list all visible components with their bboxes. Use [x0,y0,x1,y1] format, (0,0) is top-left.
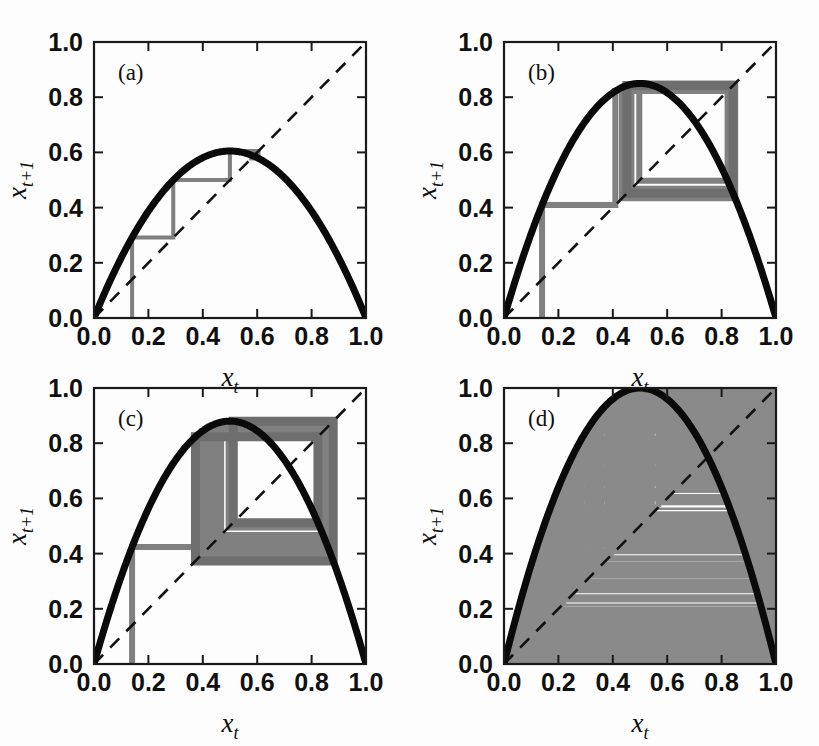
x-tick-label: 0.8 [704,668,739,696]
y-tick-label: 0.2 [458,249,493,277]
y-tick-label: 0.4 [458,540,493,568]
y-tick-label: 0.6 [48,138,83,166]
plot-d: 0.00.00.20.20.40.40.60.60.80.81.01.0xtxt… [410,346,819,746]
y-tick-label: 1.0 [48,374,83,402]
panel-d: 0.00.00.20.20.40.40.60.60.80.81.01.0xtxt… [410,346,819,746]
y-tick-label: 0.4 [48,540,83,568]
y-tick-label: 0.8 [48,83,83,111]
y-tick-label: 0.0 [458,304,493,332]
y-tick-label: 0.6 [458,138,493,166]
y-tick-label: 0.0 [458,650,493,678]
y-tick-label: 0.0 [48,650,83,678]
x-tick-label: 0.4 [595,668,630,696]
panel-b: 0.00.00.20.20.40.40.60.60.80.81.01.0xtxt… [410,0,819,400]
panel-tag: (d) [528,406,555,431]
cobweb-trajectory [542,83,735,318]
y-tick-label: 1.0 [48,28,83,56]
y-tick-label: 0.2 [48,595,83,623]
x-tick-label: 0.6 [650,668,685,696]
panel-tag: (c) [118,406,144,431]
y-tick-label: 0.0 [48,304,83,332]
panel-a: 0.00.00.20.20.40.40.60.60.80.81.01.0xtxt… [0,0,409,400]
x-tick-label: 1.0 [759,668,794,696]
panel-tag: (b) [528,60,555,85]
x-axis-label: xt [221,708,240,743]
y-tick-label: 1.0 [458,374,493,402]
y-tick-label: 0.4 [48,194,83,222]
y-tick-label: 0.6 [458,484,493,512]
y-axis-label: xt+1 [2,161,37,200]
x-tick-label: 0.8 [294,668,329,696]
y-tick-label: 0.2 [458,595,493,623]
y-tick-label: 1.0 [458,28,493,56]
x-tick-label: 1.0 [349,668,384,696]
plot-b: 0.00.00.20.20.40.40.60.60.80.81.01.0xtxt… [410,0,819,400]
y-tick-label: 0.4 [458,194,493,222]
cobweb-trajectory [132,151,258,318]
y-tick-label: 0.2 [48,249,83,277]
y-axis-label: xt+1 [2,507,37,546]
y-tick-label: 0.8 [48,429,83,457]
x-tick-label: 0.2 [131,668,166,696]
y-axis-label: xt+1 [412,161,447,200]
x-tick-label: 0.6 [240,668,275,696]
panel-c: 0.00.00.20.20.40.40.60.60.80.81.01.0xtxt… [0,346,409,746]
x-tick-label: 0.4 [185,668,220,696]
plot-a: 0.00.00.20.20.40.40.60.60.80.81.01.0xtxt… [0,0,409,400]
figure-logistic-cobweb-grid: 0.00.00.20.20.40.40.60.60.80.81.01.0xtxt… [0,0,819,746]
plot-c: 0.00.00.20.20.40.40.60.60.80.81.01.0xtxt… [0,346,409,746]
x-axis-label: xt [631,708,650,743]
y-tick-label: 0.6 [48,484,83,512]
panel-tag: (a) [118,60,144,85]
x-tick-label: 0.2 [541,668,576,696]
y-tick-label: 0.8 [458,429,493,457]
y-axis-label: xt+1 [412,507,447,546]
y-tick-label: 0.8 [458,83,493,111]
